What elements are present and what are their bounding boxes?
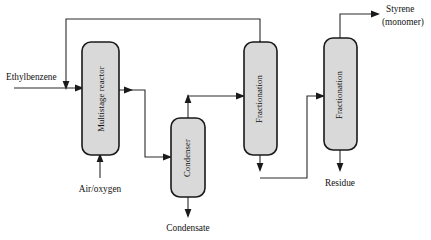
stream-label-styrene: Styrene <box>386 4 414 14</box>
vessel-condenser[interactable]: Condenser <box>171 118 205 197</box>
stream-label-styrene-monomer: (monomer) <box>382 17 424 28</box>
vessel-label-condenser: Condenser <box>182 139 192 177</box>
stream-label-ethylbenzene: Ethylbenzene <box>6 72 57 82</box>
vessel-label-fractionation-1: Fractionation <box>254 75 264 123</box>
flow-diagram-canvas: Multistage reactor Condenser Fractionati… <box>0 0 431 240</box>
stream-line-condensate <box>185 197 192 218</box>
stream-line-ethylbenzene <box>14 85 84 92</box>
stream-label-residue: Residue <box>325 178 355 188</box>
stream-line-condenser-to-fractionation1 <box>185 93 245 118</box>
vessel-fractionation-1[interactable]: Fractionation <box>244 42 277 155</box>
stream-line-residue <box>337 150 344 172</box>
stream-label-air-oxygen: Air/oxygen <box>79 184 122 194</box>
vessel-label-multistage-reactor: Multistage reactor <box>96 66 106 131</box>
process-flow-diagram: Multistage reactor Condenser Fractionati… <box>0 0 431 240</box>
vessel-fractionation-2[interactable]: Fractionation <box>324 38 357 150</box>
stream-line-air-oxygen <box>97 153 104 178</box>
vessel-multistage-reactor[interactable]: Multistage reactor <box>82 42 119 155</box>
stream-line-reactor-to-condenser <box>119 87 172 161</box>
stream-line-styrene <box>340 11 380 38</box>
vessel-label-fractionation-2: Fractionation <box>334 71 344 119</box>
stream-label-condensate: Condensate <box>166 223 209 233</box>
